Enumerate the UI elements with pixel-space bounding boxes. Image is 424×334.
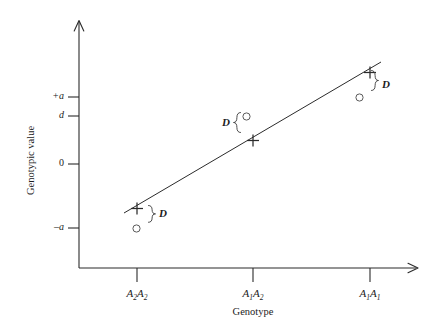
deviation-label-middle: D [222,117,230,128]
x-axis-title: Genotype [193,307,313,318]
deviation-label-left: D [159,208,167,219]
x-tick-a2a2-sub1: 2 [133,293,137,302]
deviation-label-right: D [382,79,390,90]
y-tick-label-plus-a: +a [36,91,64,101]
y-tick-label-d: d [36,110,64,120]
x-tick-a2a2-letter2: A [137,287,144,299]
plus-marker-a1a2 [247,135,259,147]
circle-marker-a1a2 [243,113,250,120]
x-tick-a1a2-sub1: 1 [249,293,253,302]
y-tick-label-minus-a: –a [36,222,64,232]
brace-left [149,206,156,223]
x-axis [79,263,418,273]
brace-right [372,71,379,91]
x-tick-label-a1a2: A1A2 [223,288,283,299]
x-tick-a2a2-sub2: 2 [144,293,148,302]
circle-marker-a2a2 [133,225,140,232]
y-axis [74,21,84,269]
x-tick-a1a2-sub2: 2 [260,293,264,302]
x-tick-a1a1-sub2: 1 [377,293,381,302]
x-tick-a1a1-sub1: 1 [366,293,370,302]
y-tick-marks [68,97,79,228]
genotypic-value-figure: +a d 0 –a Genotypic value A2A2 A1A2 A1A1… [0,0,424,334]
plus-marker-a2a2 [131,203,143,215]
y-axis-title: Genotypic value [26,126,37,195]
x-tick-a1a1-letter2: A [370,287,377,299]
x-tick-marks [137,268,370,282]
brace-middle [234,113,241,133]
x-tick-label-a2a2: A2A2 [107,288,167,299]
y-tick-label-zero: 0 [36,158,64,168]
x-tick-a1a2-letter2: A [253,287,260,299]
circle-marker-a1a1 [356,94,363,101]
x-tick-label-a1a1: A1A1 [340,288,400,299]
